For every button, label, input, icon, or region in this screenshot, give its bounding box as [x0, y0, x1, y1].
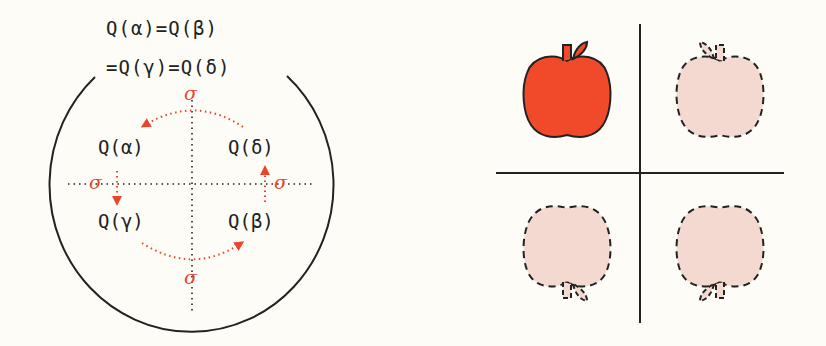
equation-line-1: Q(α)=Q(β): [106, 17, 218, 39]
apple-mirrored-icon: [677, 42, 764, 137]
apple-quadrants-graphic: [413, 0, 826, 346]
node-q-delta: Q(δ): [228, 136, 274, 158]
arrow-gamma-to-beta: [142, 243, 240, 259]
node-q-alpha: Q(α): [98, 136, 144, 158]
sigma-label-left: σ: [89, 173, 102, 192]
circle-diagram-graphic: [0, 0, 413, 346]
symmetry-circle-diagram: Q(α)=Q(β) =Q(γ)=Q(δ) Q(α) Q(δ) Q(γ) Q(β)…: [0, 0, 413, 346]
sigma-label-bottom: σ: [184, 268, 197, 287]
arrow-delta-to-alpha: [145, 110, 243, 127]
apple-rotated-icon: [677, 206, 764, 301]
sigma-label-right: σ: [274, 173, 287, 192]
node-q-gamma: Q(γ): [98, 210, 144, 232]
sigma-label-top: σ: [184, 84, 197, 103]
apple-original-icon: [524, 42, 611, 137]
equation-line-2: =Q(γ)=Q(δ): [106, 56, 230, 78]
apple-flipped-vertical-icon: [524, 206, 611, 301]
apple-quadrant-diagram: [413, 0, 826, 346]
node-q-beta: Q(β): [228, 210, 274, 232]
